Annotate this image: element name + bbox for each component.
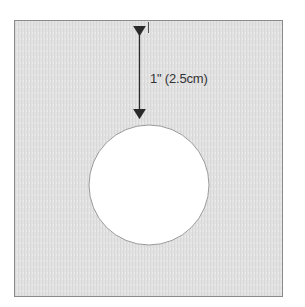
diagram-canvas xyxy=(0,0,305,307)
dimension-label: 1" (2.5cm) xyxy=(150,71,208,86)
circle-hole xyxy=(89,125,209,245)
